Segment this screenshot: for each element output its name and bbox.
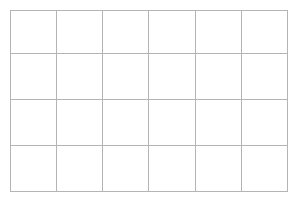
grid-cell[interactable] bbox=[241, 146, 287, 192]
grid-cell[interactable] bbox=[57, 146, 103, 192]
grid-cell[interactable] bbox=[11, 100, 57, 146]
grid-cell[interactable] bbox=[195, 100, 241, 146]
grid-cell[interactable] bbox=[195, 146, 241, 192]
grid-cell[interactable] bbox=[103, 100, 149, 146]
grid-cell[interactable] bbox=[103, 146, 149, 192]
table-row bbox=[11, 100, 288, 146]
grid-cell[interactable] bbox=[195, 11, 241, 54]
grid-cell[interactable] bbox=[103, 54, 149, 100]
grid-figure bbox=[0, 0, 297, 200]
grid-table bbox=[10, 10, 288, 192]
grid-cell[interactable] bbox=[11, 11, 57, 54]
grid-cell[interactable] bbox=[57, 54, 103, 100]
table-row bbox=[11, 146, 288, 192]
grid-cell[interactable] bbox=[11, 54, 57, 100]
table-row bbox=[11, 11, 288, 54]
grid-cell[interactable] bbox=[57, 100, 103, 146]
grid-cell[interactable] bbox=[149, 100, 195, 146]
grid-cell[interactable] bbox=[241, 100, 287, 146]
grid-cell[interactable] bbox=[149, 146, 195, 192]
grid-cell[interactable] bbox=[11, 146, 57, 192]
table-row bbox=[11, 54, 288, 100]
grid-cell[interactable] bbox=[241, 11, 287, 54]
grid-cell[interactable] bbox=[149, 54, 195, 100]
grid-cell[interactable] bbox=[103, 11, 149, 54]
grid-cell[interactable] bbox=[149, 11, 195, 54]
grid-cell[interactable] bbox=[241, 54, 287, 100]
grid-table-body bbox=[11, 11, 288, 192]
grid-cell[interactable] bbox=[57, 11, 103, 54]
grid-cell[interactable] bbox=[195, 54, 241, 100]
